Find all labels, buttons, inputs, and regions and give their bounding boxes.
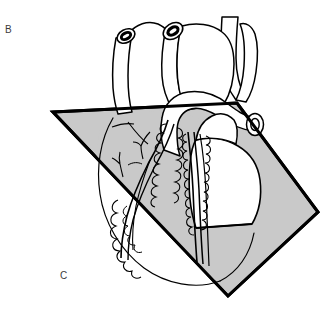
panel-label-c: C [60, 270, 67, 281]
panel-label-b: B [5, 24, 12, 35]
heart-section-illustration [0, 0, 333, 313]
figure-container: B C [0, 0, 333, 313]
